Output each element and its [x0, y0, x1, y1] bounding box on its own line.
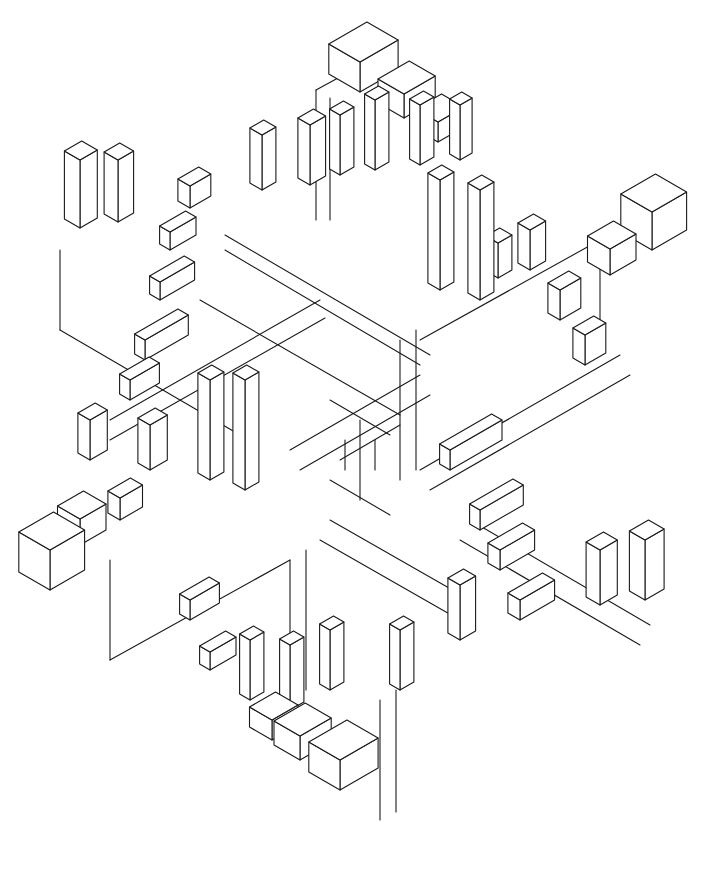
iso-block: [180, 577, 220, 620]
iso-block: [365, 86, 389, 170]
iso-block: [508, 573, 555, 620]
iso-block: [19, 512, 85, 590]
iso-block: [240, 626, 264, 700]
iso-block: [573, 316, 606, 365]
iso-block: [200, 631, 236, 670]
iso-block: [160, 211, 196, 250]
iso-block: [178, 167, 211, 208]
iso-block: [440, 414, 502, 470]
iso-block: [428, 165, 454, 290]
iso-block: [488, 523, 535, 570]
iso-block: [410, 91, 434, 165]
iso-block: [64, 141, 97, 228]
iso-blocks: [19, 22, 687, 790]
iso-block: [330, 101, 354, 175]
iso-block: [518, 214, 546, 270]
iso-block: [78, 403, 107, 460]
iso-block: [233, 365, 259, 490]
isometric-star-artwork: [0, 0, 716, 894]
iso-block: [198, 365, 224, 480]
iso-block: [138, 408, 167, 470]
iso-block: [150, 256, 195, 300]
iso-block: [470, 479, 524, 530]
artwork-svg: [0, 0, 716, 894]
iso-block: [298, 109, 326, 185]
iso-block: [548, 271, 581, 320]
iso-block: [320, 616, 344, 690]
iso-block: [108, 478, 143, 520]
iso-block: [390, 616, 414, 690]
iso-block: [468, 175, 494, 300]
iso-block: [104, 143, 134, 222]
iso-block: [135, 309, 189, 360]
iso-block: [250, 120, 276, 190]
iso-block: [120, 357, 160, 400]
iso-block: [629, 520, 664, 600]
iso-block: [450, 92, 473, 160]
iso-block: [586, 532, 617, 605]
iso-block: [448, 569, 476, 640]
